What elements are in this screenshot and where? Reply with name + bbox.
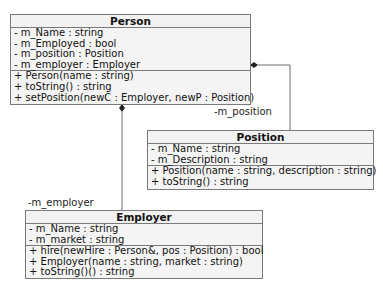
operations-section: + Position(name : string, description : … (148, 165, 373, 187)
attributes-section: - m_Name : string - m_Description : stri… (148, 144, 373, 165)
composition-diamond-icon (119, 104, 125, 112)
role-label-employer: -m_employer (28, 197, 94, 208)
role-label-position: -m_position (214, 106, 272, 117)
class-person[interactable]: Person - m_Name : string - m_Employed : … (10, 14, 251, 105)
attribute: - m_Name : string (151, 144, 373, 155)
operations-section: + hire(newHire : Person&, pos : Position… (26, 245, 262, 278)
operation: + toString()() : string (29, 267, 262, 278)
attributes-section: - m_Name : string - m_market : string (26, 224, 262, 245)
operation: + setPosition(newC : Employer, newP : Po… (14, 93, 250, 104)
attribute: - m_Description : string (151, 155, 373, 166)
attribute: - m_market : string (29, 235, 262, 246)
attribute: - m_Name : string (29, 224, 262, 235)
operation: + toString() : string (14, 82, 250, 93)
position-association-line (258, 65, 290, 130)
class-position[interactable]: Position - m_Name : string - m_Descripti… (147, 130, 374, 190)
operation: + toString() : string (151, 177, 373, 188)
attributes-section: - m_Name : string - m_Employed : bool - … (11, 28, 250, 70)
composition-diamond-icon (250, 62, 258, 68)
attribute: - m_Name : string (14, 28, 250, 39)
attribute: - m_employer : Employer (14, 60, 250, 71)
class-employer[interactable]: Employer - m_Name : string - m_market : … (25, 210, 263, 279)
operations-section: + Person(name : string) + toString() : s… (11, 70, 250, 103)
